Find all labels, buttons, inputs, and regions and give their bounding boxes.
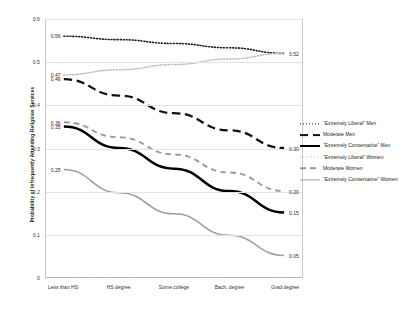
series-start-value-label: 0.36 <box>51 120 61 126</box>
y-tick-label: 0.6 <box>20 16 40 22</box>
gridline <box>46 235 302 236</box>
legend-line-icon <box>300 142 320 150</box>
gridline <box>46 192 302 193</box>
y-tick-label: 0 <box>20 275 40 281</box>
series-end-value-label: 0.30 <box>289 146 299 152</box>
legend-line-icon <box>300 164 320 172</box>
x-tick-label: Grad degree <box>271 284 299 290</box>
series-line <box>64 169 284 255</box>
gridline <box>46 19 302 20</box>
y-tick-label: 0.2 <box>20 189 40 195</box>
series-end-value-label: 0.15 <box>289 210 299 216</box>
series-start-value-label: 0.47 <box>51 72 61 78</box>
legend-line-icon <box>300 176 320 184</box>
legend-label: Moderate Men <box>323 132 355 137</box>
legend-label: “Extremely Liberal” Women <box>323 155 383 160</box>
series-line <box>64 122 284 191</box>
y-axis-tick-labels: 00.10.20.30.40.50.6 <box>18 0 40 319</box>
series-end-value-label: 0.52 <box>289 51 299 57</box>
series-line <box>64 127 284 213</box>
y-tick-label: 0.5 <box>20 59 40 65</box>
legend-label: “Extremely Conservative” Women <box>323 177 398 182</box>
legend-label: “Extremely Liberal” Men <box>323 121 376 126</box>
legend-item[interactable]: Moderate Women <box>300 163 418 174</box>
line-chart: Probability of Infrequently Attending Re… <box>0 0 420 319</box>
legend-label: “Extremely Conservative” Men <box>323 143 390 148</box>
x-tick-label: Less than HS <box>48 284 78 290</box>
x-axis-tick-labels: Less than HSHS degreeSome collegeBach. d… <box>45 284 303 296</box>
series-line <box>64 36 284 53</box>
y-tick-label: 0.3 <box>20 146 40 152</box>
y-tick-label: 0.4 <box>20 102 40 108</box>
series-start-value-label: 0.56 <box>51 33 61 39</box>
legend-item[interactable]: “Extremely Conservative” Men <box>300 140 418 151</box>
series-line <box>64 79 284 148</box>
legend-label: Moderate Women <box>323 166 362 171</box>
legend-line-icon <box>300 120 320 128</box>
gridline <box>46 149 302 150</box>
x-tick-label: HS degree <box>107 284 131 290</box>
plot-area <box>45 19 303 278</box>
x-tick-label: Some college <box>159 284 189 290</box>
legend-item[interactable]: “Extremely Liberal” Men <box>300 118 418 129</box>
series-end-value-label: 0.05 <box>289 253 299 259</box>
legend-item[interactable]: Moderate Men <box>300 129 418 140</box>
series-start-value-label: 0.25 <box>51 167 61 173</box>
gridline <box>46 105 302 106</box>
x-tick-label: Bach. degree <box>215 284 245 290</box>
series-end-value-label: 0.20 <box>289 189 299 195</box>
legend-line-icon <box>300 131 320 139</box>
legend: “Extremely Liberal” MenModerate Men“Extr… <box>300 118 418 185</box>
gridline <box>46 62 302 63</box>
y-tick-label: 0.1 <box>20 232 40 238</box>
series-line <box>64 53 284 75</box>
legend-item[interactable]: “Extremely Liberal” Women <box>300 152 418 163</box>
legend-line-icon <box>300 153 320 161</box>
legend-item[interactable]: “Extremely Conservative” Women <box>300 174 418 185</box>
